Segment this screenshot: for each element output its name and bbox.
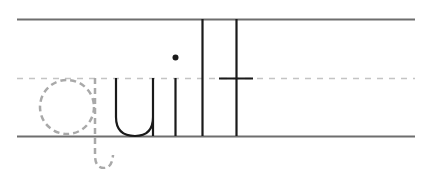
letter-t bbox=[219, 19, 253, 136]
letter-u bbox=[116, 78, 153, 136]
handwriting-practice-sheet: quilt bbox=[0, 0, 438, 169]
letter-i bbox=[173, 55, 179, 137]
letter-q-trace bbox=[40, 78, 113, 168]
writing-guide-canvas bbox=[0, 0, 438, 169]
